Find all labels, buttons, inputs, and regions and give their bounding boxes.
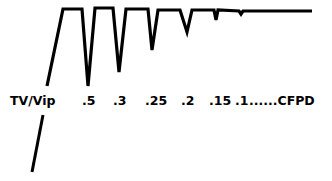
label-tv-vip: TV/Vip xyxy=(10,94,55,108)
label-0-5: .5 xyxy=(82,94,95,108)
waveform-trace xyxy=(0,0,332,181)
label-0-3: .3 xyxy=(113,94,126,108)
lower-waveform-line xyxy=(32,115,43,172)
label-0-1: .1 xyxy=(235,94,248,108)
label-0-25: .25 xyxy=(145,94,167,108)
label-0-2: .2 xyxy=(181,94,194,108)
label-cfpd: ......CFPD xyxy=(249,94,315,108)
label-0-15: .15 xyxy=(209,94,231,108)
waveform-diagram: TV/Vip .5 .3 .25 .2 .15 .1 ......CFPD xyxy=(0,0,332,181)
upper-waveform-line xyxy=(47,8,312,86)
